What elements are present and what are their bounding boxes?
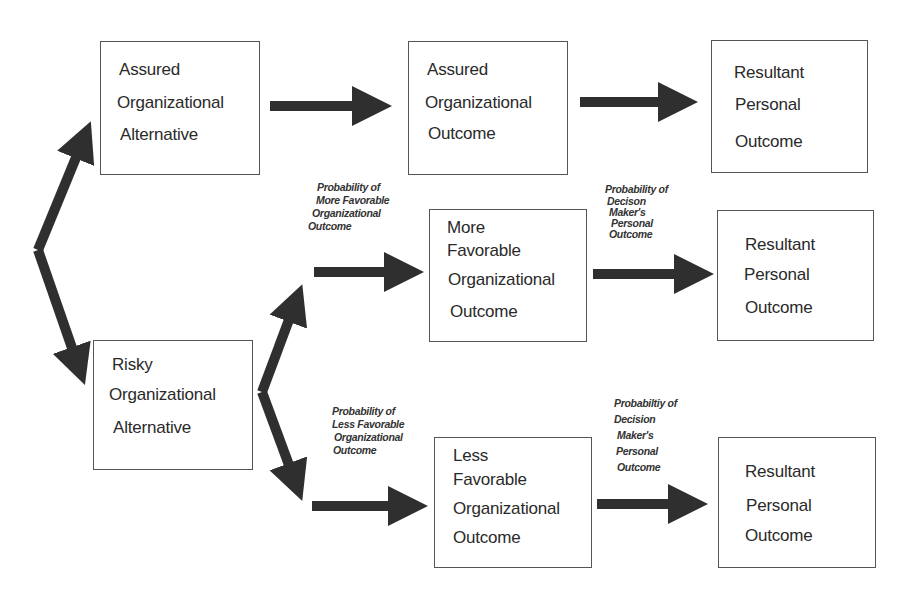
box-line: Personal — [746, 496, 812, 516]
box-line: Outcome — [428, 124, 496, 144]
label-prob-personal-upper: Probability of Decison Maker's Personal … — [605, 183, 668, 240]
box-line: Organizational — [117, 93, 224, 113]
label-line: Decision — [614, 411, 677, 427]
box-line: Outcome — [735, 132, 803, 152]
box-line: Outcome — [453, 528, 521, 548]
box-line: Assured — [427, 60, 488, 80]
box-line: Resultant — [745, 462, 815, 482]
box-more-favorable-organizational-outcome: More Favorable Organizational Outcome — [429, 209, 587, 342]
label-line: Organizational — [312, 207, 389, 220]
label-line: Less Favorable — [332, 418, 404, 431]
box-line: Less — [453, 446, 488, 466]
box-line: Outcome — [450, 302, 518, 322]
box-assured-organizational-alternative: Assured Organizational Alternative — [100, 41, 260, 175]
label-line: Outcome — [609, 229, 668, 240]
label-line: More Favorable — [316, 194, 389, 207]
box-line: Personal — [735, 95, 801, 115]
label-line: Probabiltiy of — [614, 395, 677, 411]
label-prob-more-favorable: Probability of More Favorable Organizati… — [308, 181, 389, 233]
box-line: Organizational — [109, 385, 216, 405]
box-less-favorable-organizational-outcome: Less Favorable Organizational Outcome — [434, 437, 592, 568]
label-line: Outcome — [617, 459, 677, 475]
arrow-root-to-assured — [38, 138, 84, 250]
label-prob-less-favorable: Probability of Less Favorable Organizati… — [332, 405, 404, 457]
box-line: Favorable — [447, 241, 521, 261]
box-line: Organizational — [448, 270, 555, 290]
box-line: Outcome — [745, 526, 813, 546]
label-line: Maker's — [617, 427, 677, 443]
box-line: Risky — [112, 355, 153, 375]
box-line: Organizational — [453, 499, 560, 519]
box-line: Alternative — [120, 125, 198, 145]
box-line: Outcome — [745, 298, 813, 318]
box-line: Favorable — [453, 470, 527, 490]
box-line: Personal — [744, 265, 810, 285]
label-line: Outcome — [308, 220, 389, 233]
label-line: Outcome — [333, 444, 404, 457]
box-resultant-personal-outcome-1: Resultant Personal Outcome — [711, 40, 868, 173]
arrow-risky-to-less-favorable-branch — [262, 392, 296, 484]
box-line: More — [447, 218, 485, 238]
box-line: Resultant — [745, 235, 815, 255]
label-line: Organizational — [334, 431, 404, 444]
box-line: Assured — [119, 60, 180, 80]
arrow-root-to-risky — [38, 250, 79, 368]
box-line: Resultant — [734, 63, 804, 83]
box-resultant-personal-outcome-3: Resultant Personal Outcome — [718, 437, 876, 568]
label-line: Probability of — [332, 405, 404, 418]
label-prob-personal-lower: Probabiltiy of Decision Maker's Personal… — [614, 395, 677, 475]
box-risky-organizational-alternative: Risky Organizational Alternative — [93, 340, 253, 470]
box-line: Alternative — [113, 418, 191, 438]
arrow-risky-to-more-favorable-branch — [262, 301, 296, 392]
box-line: Organizational — [425, 93, 532, 113]
box-assured-organizational-outcome: Assured Organizational Outcome — [408, 41, 568, 175]
box-resultant-personal-outcome-2: Resultant Personal Outcome — [717, 210, 874, 341]
label-line: Probability of — [317, 181, 389, 194]
label-line: Personal — [616, 443, 677, 459]
